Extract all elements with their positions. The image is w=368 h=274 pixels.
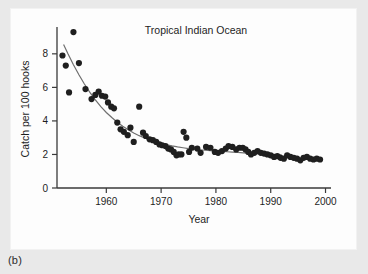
scatter-plot: 02468 19601970198019902000 Tropical Indi… xyxy=(11,9,356,249)
x-tick-label: 1990 xyxy=(260,196,283,207)
y-tick-label: 6 xyxy=(42,82,48,93)
data-point xyxy=(66,89,72,95)
y-axis-title: Catch per 100 hooks xyxy=(19,61,31,158)
x-tick-label: 1980 xyxy=(205,196,228,207)
y-tick-label: 0 xyxy=(42,183,48,194)
y-tick-label: 4 xyxy=(42,115,48,126)
data-point xyxy=(114,119,120,125)
chart-title: Tropical Indian Ocean xyxy=(145,24,247,36)
data-point xyxy=(111,105,117,111)
data-point xyxy=(183,135,189,141)
y-axis-ticks: 02468 xyxy=(42,48,57,193)
data-point xyxy=(131,139,137,145)
y-tick-label: 2 xyxy=(42,149,48,160)
data-point xyxy=(136,104,142,110)
data-point xyxy=(63,62,69,68)
fitted-curve xyxy=(64,45,282,155)
data-point xyxy=(178,151,184,157)
figure-panel: 02468 19601970198019902000 Tropical Indi… xyxy=(11,9,356,249)
x-tick-label: 2000 xyxy=(314,196,337,207)
data-point xyxy=(127,125,133,131)
figure-caption-label: (b) xyxy=(8,254,22,266)
plot-axes xyxy=(57,27,331,188)
data-point xyxy=(317,156,323,162)
x-axis-title: Year xyxy=(188,213,210,225)
data-points xyxy=(59,29,323,164)
data-point xyxy=(125,132,131,138)
data-point xyxy=(180,129,186,135)
data-point xyxy=(197,150,203,156)
data-point xyxy=(70,29,76,35)
data-point xyxy=(102,94,108,100)
x-tick-label: 1960 xyxy=(95,196,118,207)
x-axis-ticks: 19601970198019902000 xyxy=(95,188,337,207)
x-tick-label: 1970 xyxy=(150,196,173,207)
data-point xyxy=(76,60,82,66)
y-tick-label: 8 xyxy=(42,48,48,59)
data-point xyxy=(59,52,65,58)
data-point xyxy=(82,86,88,92)
data-point xyxy=(189,145,195,151)
